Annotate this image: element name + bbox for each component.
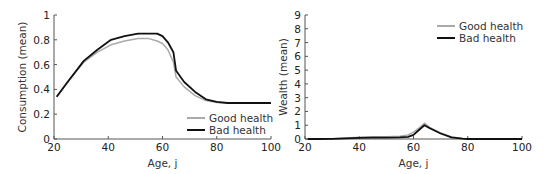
- x-tick-label: 40: [102, 141, 115, 153]
- x-tick-label: 100: [512, 141, 532, 153]
- y-tick-label: 6: [294, 50, 301, 62]
- x-tick-label: 80: [210, 141, 223, 153]
- wealth-chart: 204060801000123456789Age, jWealth (mean)…: [277, 9, 532, 169]
- x-tick-label: 40: [353, 141, 366, 153]
- series-line-good-health: [308, 123, 522, 139]
- y-tick-label: 1: [294, 119, 301, 131]
- x-tick-label: 60: [156, 141, 169, 153]
- x-axis-label: Age, j: [399, 157, 429, 169]
- y-tick-label: 3: [294, 92, 301, 104]
- legend-label: Good health: [459, 20, 523, 32]
- y-tick-label: 0.2: [33, 108, 50, 120]
- legend-label: Bad health: [209, 124, 266, 136]
- series-line-bad-health: [308, 125, 522, 139]
- y-axis-label: Wealth (mean): [277, 38, 289, 116]
- y-tick-label: 0: [43, 133, 50, 145]
- y-tick-label: 2: [294, 105, 301, 117]
- x-tick-label: 60: [407, 141, 420, 153]
- legend-label: Good health: [209, 112, 273, 124]
- y-tick-label: 0.8: [33, 34, 50, 46]
- figure: 2040608010000.20.40.60.81Age, jConsumpti…: [0, 0, 548, 174]
- y-axis-label: Consumption (mean): [16, 22, 28, 133]
- y-tick-label: 0: [294, 133, 301, 145]
- x-tick-label: 80: [461, 141, 474, 153]
- y-tick-label: 8: [294, 23, 301, 35]
- legend-label: Bad health: [459, 32, 516, 44]
- series-line-good-health: [57, 39, 271, 103]
- y-tick-label: 0.4: [33, 83, 50, 95]
- y-tick-label: 0.6: [33, 59, 50, 71]
- consumption-chart: 2040608010000.20.40.60.81Age, jConsumpti…: [16, 9, 281, 169]
- y-tick-label: 5: [294, 64, 301, 76]
- y-tick-label: 9: [294, 9, 301, 21]
- y-tick-label: 7: [294, 37, 301, 49]
- y-tick-label: 4: [294, 78, 301, 90]
- x-tick-label: 100: [261, 141, 281, 153]
- x-axis-label: Age, j: [148, 157, 178, 169]
- y-tick-label: 1: [43, 9, 50, 21]
